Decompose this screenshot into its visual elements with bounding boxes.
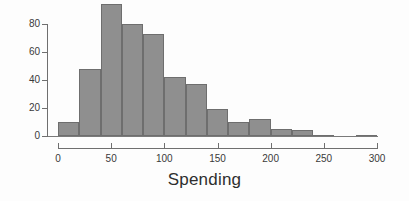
x-axis-title: Spending [0,170,409,190]
y-axis-tick [42,108,47,109]
x-axis-tick [218,143,219,149]
x-axis-tick [271,143,272,149]
y-axis-tick [42,24,47,25]
x-axis-tick-label: 150 [198,153,238,164]
y-axis-tick-label: 60 [0,47,40,57]
y-axis-tick-label: 0 [0,131,40,141]
histogram-bar [143,34,164,136]
histogram-bar [164,77,185,136]
histogram-bar [58,122,79,136]
histogram-figure: 020406080 050100150200250300 Spending [0,0,409,201]
histogram-bar [228,122,249,136]
x-axis-tick-label: 200 [251,153,291,164]
y-axis-line [47,24,48,137]
y-axis-tick [42,52,47,53]
y-axis-tick [42,80,47,81]
y-axis-tick-label: 80 [0,19,40,29]
histogram-bar [79,69,100,136]
x-axis-tick [164,143,165,149]
histogram-bar [122,24,143,136]
x-axis-tick-label: 0 [38,153,78,164]
x-axis-tick [324,143,325,149]
histogram-bar [186,84,207,136]
histogram-bar [271,129,292,136]
histogram-bar [207,109,228,136]
histogram-bar [101,4,122,136]
x-axis-tick [377,143,378,149]
y-axis-tick-label: 40 [0,75,40,85]
histogram-bar [249,119,270,136]
x-axis-tick-label: 50 [91,153,131,164]
y-axis-tick-label: 20 [0,103,40,113]
x-axis-tick-label: 250 [304,153,344,164]
baseline-axis [47,136,378,137]
x-axis-tick-label: 300 [357,153,397,164]
x-axis-tick [58,143,59,149]
plot-area: 020406080 050100150200250300 Spending [0,0,409,201]
x-axis-tick-label: 100 [144,153,184,164]
x-axis-tick [111,143,112,149]
y-axis-tick [42,136,47,137]
